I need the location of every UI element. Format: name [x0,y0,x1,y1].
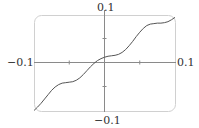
y-axis-min-label: −0.1 [94,115,121,126]
y-axis-max-label: 0.1 [97,2,115,13]
x-axis-max-label: 0.1 [177,57,195,68]
x-axis-min-label: −0.1 [7,57,34,68]
